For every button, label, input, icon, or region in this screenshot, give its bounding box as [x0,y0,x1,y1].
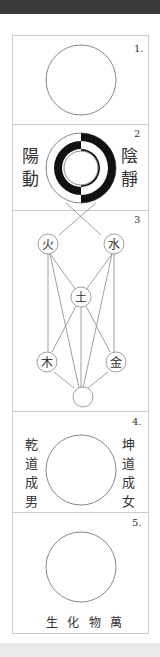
diagram-frame [13,36,149,634]
caption-char: 萬 [110,616,122,630]
water-char: 水 [108,238,120,252]
convergence-node [73,387,93,407]
section-number-2: 2 [134,128,140,139]
cheng-char-right: 成 [122,475,135,490]
earth-char: 土 [75,291,87,305]
yin-char: 陰 [121,146,138,166]
caption-char: 化 [67,616,79,630]
section-number-5: 5. [132,517,142,528]
dao-char-right: 道 [122,456,135,471]
section-1: 1. [46,43,144,115]
section-3 [37,203,126,407]
caption-char: 物 [89,616,101,630]
section-number-1: 1. [134,43,144,54]
section-4: 4. 乾 道 成 男 坤 道 成 女 [25,416,142,509]
cheng-char-left: 成 [25,475,38,490]
nan-char: 男 [25,494,38,509]
qian-char: 乾 [25,437,38,452]
wanwu-circle [46,532,116,602]
bottom-bar [0,643,160,657]
taiji-diagram: 1. 2 陽 動 陰 靜 [0,0,160,657]
yang-char: 陽 [22,146,39,166]
inner-circle [64,151,98,185]
section-2: 2 陽 動 陰 靜 [22,128,140,203]
qian-kun-circle [46,435,116,505]
dong-char: 動 [22,169,39,189]
section-number-4: 4. [132,416,142,427]
caption-char: 生 [46,616,58,630]
connector [59,203,96,235]
wood-char: 木 [41,356,53,370]
connector [66,203,101,235]
kun-char: 坤 [122,437,135,452]
metal-char: 金 [110,355,122,370]
section-number-3: 3 [134,214,140,225]
wuji-circle [46,45,116,115]
jing-char: 靜 [121,169,138,189]
section-5: 5. 生 化 物 萬 [46,517,142,630]
dao-char-left: 道 [25,456,38,471]
nv-char: 女 [122,494,135,509]
fire-char: 火 [42,238,54,252]
